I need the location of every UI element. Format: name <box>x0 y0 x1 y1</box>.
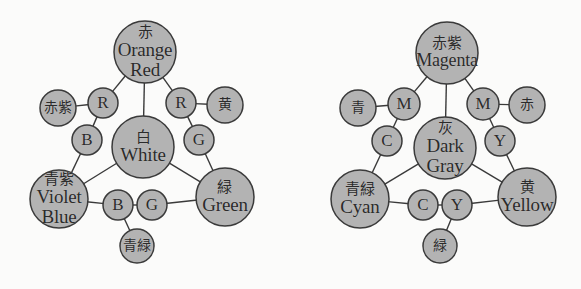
edge-white-to-green <box>168 162 201 182</box>
edge-dark-gray-to-yellow <box>470 163 503 183</box>
node-m-left <box>388 88 420 120</box>
edge-white-to-violet-blue <box>82 163 118 185</box>
node-y-bottom <box>442 190 472 220</box>
edge-magenta-to-dark-gray <box>446 82 447 118</box>
color-mixing-figure: 赤OrangeRed赤紫RR黄B白WhiteG青紫VioletBlue緑Gree… <box>0 0 581 289</box>
edge-c-left-to-cyan <box>372 153 382 174</box>
node-c-bottom <box>408 190 438 220</box>
edge-orange-red-to-white <box>144 81 145 117</box>
node-yellow <box>498 168 556 226</box>
diagram-canvas <box>0 0 581 289</box>
node-cyan-jp <box>120 229 154 263</box>
edge-dark-gray-to-cyan <box>384 163 420 185</box>
node-magenta-jp <box>40 90 76 126</box>
edge-orange-red-to-r-right <box>162 76 173 92</box>
edge-magenta-to-m-left <box>413 76 428 93</box>
node-b-left <box>72 125 102 155</box>
node-white <box>112 116 174 178</box>
node-green <box>196 168 254 226</box>
node-green-jp <box>423 229 457 263</box>
node-r-left <box>88 88 118 118</box>
node-yellow-jp <box>207 87 243 123</box>
node-g-bottom <box>137 190 167 220</box>
edge-blue-jp-to-m-left <box>374 105 389 106</box>
node-r-right <box>166 88 196 118</box>
edge-violet-blue-to-b-bottom <box>86 202 104 204</box>
node-c-left <box>372 126 402 156</box>
node-violet-blue <box>30 170 88 228</box>
node-g-right <box>184 125 214 155</box>
node-y-right <box>485 126 515 156</box>
graph-subtractive-cmy <box>331 22 556 263</box>
edge-b-left-to-violet-blue <box>71 152 81 174</box>
node-dark-gray <box>414 117 476 179</box>
node-magenta <box>416 22 478 84</box>
node-cyan <box>331 170 389 228</box>
edge-g-bottom-to-green <box>165 200 197 204</box>
node-red-jp <box>509 87 545 123</box>
node-m-right <box>467 88 499 120</box>
graph-additive-rgb <box>30 21 254 263</box>
edge-cyan-to-c-bottom <box>387 202 409 204</box>
edge-y-bottom-to-green-jp <box>446 217 452 231</box>
edge-y-right-to-yellow <box>506 153 515 172</box>
edge-magenta-jp-to-r-left <box>74 104 89 106</box>
edge-g-right-to-green <box>205 152 214 172</box>
node-blue-jp <box>340 90 376 126</box>
node-orange-red <box>114 21 176 83</box>
edge-b-bottom-to-cyan-jp <box>124 217 131 232</box>
edge-magenta-to-m-right <box>464 77 475 92</box>
edge-y-bottom-to-yellow <box>470 200 499 203</box>
edge-orange-red-to-r-left <box>112 75 127 93</box>
node-b-bottom <box>103 190 133 220</box>
